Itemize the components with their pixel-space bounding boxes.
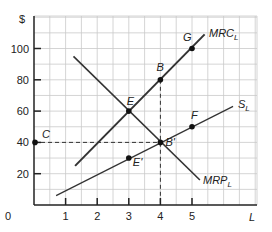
x-tick-label: 3 xyxy=(126,210,132,222)
labels: 01234520406080100$LMRCLMRPLSLCEBGB'E'F xyxy=(5,13,255,223)
x-tick-label: 4 xyxy=(157,210,163,222)
y-tick-label: 40 xyxy=(17,136,29,148)
point-b xyxy=(158,77,164,83)
subscript: L xyxy=(234,33,238,42)
subscript: L xyxy=(227,180,231,189)
point-e xyxy=(126,108,132,114)
point-c xyxy=(32,140,38,146)
x-tick-label: 0 xyxy=(5,210,11,222)
point-label: B xyxy=(156,61,163,73)
point-label: C xyxy=(42,128,50,140)
point-label: E' xyxy=(133,156,143,168)
x-tick-label: 5 xyxy=(189,210,195,222)
subscript: L xyxy=(245,104,249,113)
point-b-prime xyxy=(158,140,164,146)
curve-label-mrp-l: MRPL xyxy=(203,174,232,189)
labor-market-chart: 01234520406080100$LMRCLMRPLSLCEBGB'E'F xyxy=(0,0,272,232)
x-axis-label: L xyxy=(249,211,255,223)
y-tick-label: 20 xyxy=(17,168,29,180)
point-g xyxy=(189,46,195,52)
point-label: E xyxy=(127,95,135,107)
curve-mrc-l xyxy=(75,34,205,165)
x-tick-label: 1 xyxy=(63,210,69,222)
point-label: G xyxy=(183,31,192,43)
y-tick-label: 100 xyxy=(11,43,29,55)
x-tick-label: 2 xyxy=(94,210,100,222)
point-label: B' xyxy=(165,136,175,148)
y-tick-label: 80 xyxy=(17,74,29,86)
point-f xyxy=(189,124,195,130)
y-tick-label: 60 xyxy=(17,105,29,117)
point-label: F xyxy=(191,109,199,121)
y-axis-label: $ xyxy=(19,13,25,25)
point-e-prime xyxy=(126,155,132,161)
